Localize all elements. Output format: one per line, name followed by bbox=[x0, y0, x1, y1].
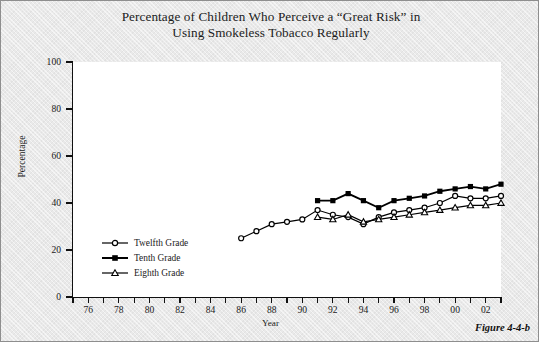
x-tick-mark bbox=[88, 297, 89, 303]
x-tick-mark bbox=[286, 297, 287, 303]
figure-container: Percentage of Children Who Perceive a “G… bbox=[0, 0, 539, 342]
x-tick-label: 76 bbox=[75, 304, 101, 315]
x-tick-mark bbox=[103, 297, 104, 303]
legend-item-tenth-grade[interactable]: Tenth Grade bbox=[101, 250, 188, 265]
x-tick-mark bbox=[500, 297, 501, 303]
y-tick-label: 40 bbox=[21, 197, 61, 208]
legend-item-eighth-grade[interactable]: Eighth Grade bbox=[101, 265, 188, 280]
x-tick-mark bbox=[134, 297, 135, 303]
x-tick-label: 94 bbox=[350, 304, 376, 315]
x-tick-mark bbox=[409, 297, 410, 303]
y-tick-mark bbox=[66, 61, 73, 62]
x-axis-title: Year bbox=[1, 318, 539, 328]
x-tick-mark bbox=[241, 297, 242, 303]
x-tick-label: 80 bbox=[136, 304, 162, 315]
y-axis-title: Percentage bbox=[16, 117, 27, 197]
x-tick-label: 96 bbox=[381, 304, 407, 315]
legend-item-twelfth-grade[interactable]: Twelfth Grade bbox=[101, 235, 188, 250]
x-tick-label: 98 bbox=[412, 304, 438, 315]
y-tick-mark bbox=[66, 155, 73, 156]
x-tick-mark bbox=[317, 297, 318, 303]
y-tick-label: 0 bbox=[21, 291, 61, 302]
x-tick-mark bbox=[271, 297, 272, 303]
x-tick-mark bbox=[164, 297, 165, 303]
x-tick-mark bbox=[210, 297, 211, 303]
open-circle-icon bbox=[101, 237, 129, 249]
x-tick-mark bbox=[72, 297, 73, 303]
y-tick-mark bbox=[66, 202, 73, 203]
y-tick-label: 80 bbox=[21, 103, 61, 114]
x-tick-mark bbox=[439, 297, 440, 303]
y-tick-label: 100 bbox=[21, 56, 61, 67]
x-tick-mark bbox=[378, 297, 379, 303]
y-tick-mark bbox=[66, 108, 73, 109]
chart-legend: Twelfth GradeTenth GradeEighth Grade bbox=[101, 235, 188, 280]
x-tick-label: 90 bbox=[289, 304, 315, 315]
x-tick-mark bbox=[393, 297, 394, 303]
x-tick-label: 02 bbox=[473, 304, 499, 315]
x-tick-mark bbox=[363, 297, 364, 303]
chart-title: Percentage of Children Who Perceive a “G… bbox=[61, 9, 481, 41]
x-tick-mark bbox=[455, 297, 456, 303]
x-tick-label: 78 bbox=[106, 304, 132, 315]
x-tick-label: 84 bbox=[198, 304, 224, 315]
x-tick-mark bbox=[225, 297, 226, 303]
chart-title-line-2: Using Smokeless Tobacco Regularly bbox=[61, 25, 481, 41]
y-axis-line bbox=[72, 61, 73, 298]
x-tick-mark bbox=[195, 297, 196, 303]
open-triangle-icon bbox=[101, 267, 129, 279]
legend-label: Tenth Grade bbox=[134, 253, 180, 263]
x-tick-label: 88 bbox=[259, 304, 285, 315]
chart-title-line-1: Percentage of Children Who Perceive a “G… bbox=[61, 9, 481, 25]
data-point-marker bbox=[112, 255, 118, 261]
x-tick-label: 00 bbox=[442, 304, 468, 315]
filled-square-icon bbox=[101, 252, 129, 264]
figure-caption: Figure 4-4-b bbox=[475, 322, 530, 333]
x-tick-mark bbox=[485, 297, 486, 303]
x-tick-mark bbox=[470, 297, 471, 303]
x-tick-mark bbox=[302, 297, 303, 303]
x-tick-label: 82 bbox=[167, 304, 193, 315]
y-tick-mark bbox=[66, 249, 73, 250]
x-tick-mark bbox=[424, 297, 425, 303]
x-tick-label: 86 bbox=[228, 304, 254, 315]
legend-label: Twelfth Grade bbox=[134, 238, 188, 248]
x-tick-label: 92 bbox=[320, 304, 346, 315]
x-tick-mark bbox=[149, 297, 150, 303]
data-point-marker bbox=[112, 240, 117, 245]
x-tick-mark bbox=[332, 297, 333, 303]
x-tick-mark bbox=[118, 297, 119, 303]
legend-label: Eighth Grade bbox=[134, 268, 184, 278]
x-tick-mark bbox=[256, 297, 257, 303]
x-tick-mark bbox=[179, 297, 180, 303]
y-tick-label: 60 bbox=[21, 150, 61, 161]
y-tick-label: 20 bbox=[21, 244, 61, 255]
x-tick-mark bbox=[348, 297, 349, 303]
